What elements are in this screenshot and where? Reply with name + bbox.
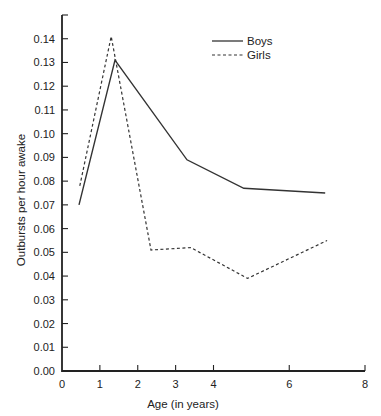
y-tick-label: 0.11 [34, 104, 55, 116]
y-tick-label: 0.06 [34, 223, 55, 235]
y-tick-label: 0.10 [34, 128, 55, 140]
y-tick-label: 0.09 [34, 151, 55, 163]
y-tick-label: 0.05 [34, 246, 55, 258]
y-tick-label: 0.02 [34, 318, 55, 330]
series-layer [79, 36, 327, 278]
y-tick-label: 0.07 [34, 199, 55, 211]
x-tick-label: 6 [286, 378, 292, 390]
y-tick-label: 0.12 [34, 80, 55, 92]
series-line-girls [80, 36, 327, 278]
x-tick-label: 0 [59, 378, 65, 390]
line-chart: 0.000.010.020.030.040.050.060.070.080.09… [0, 0, 381, 416]
legend: Boys Girls [212, 35, 273, 61]
y-tick-label: 0.00 [34, 365, 55, 377]
x-tick-label: 1 [97, 378, 103, 390]
x-tick-label: 4 [210, 378, 216, 390]
y-axis-title: Outbursts per hour awake [15, 134, 27, 266]
y-tick-label: 0.14 [34, 33, 55, 45]
y-tick-label: 0.08 [34, 175, 55, 187]
legend-label-boys: Boys [247, 35, 273, 47]
x-tick-label: 2 [135, 378, 141, 390]
y-tick-label: 0.03 [34, 294, 55, 306]
y-tick-label: 0.13 [34, 56, 55, 68]
x-tick-label: 3 [173, 378, 179, 390]
x-axis-title: Age (in years) [147, 398, 219, 410]
x-tick-label: 8 [362, 378, 368, 390]
y-tick-label: 0.04 [34, 270, 55, 282]
y-tick-label: 0.01 [34, 341, 55, 353]
series-line-boys [79, 60, 325, 205]
legend-label-girls: Girls [247, 49, 271, 61]
x-axis-ticks: 0123468 [59, 365, 368, 390]
